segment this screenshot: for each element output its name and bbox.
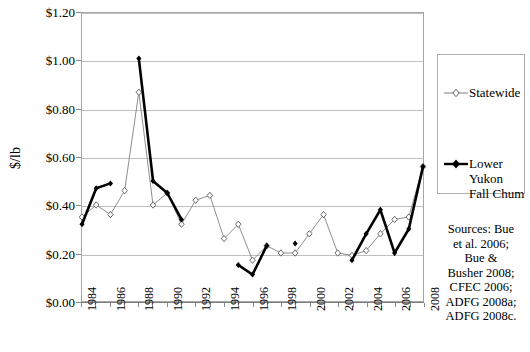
sources-line: Bue &: [434, 251, 528, 266]
x-tick-mark: [224, 303, 225, 307]
x-tick-mark: [338, 303, 339, 307]
sources-line: Sources: Bue: [434, 222, 528, 237]
open-diamond-marker-icon: [443, 86, 469, 100]
x-tick-label: 2002: [343, 287, 355, 311]
x-tick-mark: [167, 303, 168, 307]
filled-diamond-marker-icon: [443, 157, 469, 171]
x-tick-mark: [424, 303, 425, 307]
open-diamond-marker-icon: [278, 250, 283, 256]
x-tick-mark: [195, 303, 196, 307]
x-tick-mark: [367, 303, 368, 307]
x-tick-mark: [81, 303, 82, 307]
filled-diamond-marker-icon: [136, 56, 141, 62]
open-diamond-marker-icon: [108, 211, 113, 217]
x-tick-mark: [253, 303, 254, 307]
sources-line: ADFG 2008c.: [434, 309, 528, 324]
chart-figure: $/lb $0.00$0.20$0.40$0.60$0.80$1.00$1.20…: [0, 0, 530, 352]
y-tick-label: $0.20: [20, 248, 75, 261]
x-tick-label: 1994: [229, 287, 241, 311]
x-tick-label: 2000: [315, 287, 327, 311]
x-tick-mark: [110, 303, 111, 307]
legend-label-statewide: Statewide: [469, 85, 525, 100]
x-tick-label: 1992: [200, 287, 212, 311]
y-tick-label: $1.00: [20, 54, 75, 67]
sources-note: Sources: Bueet al. 2006;Bue &Busher 2008…: [434, 222, 528, 324]
legend-label-lower-yukon-fall-chum: Lower Yukon Fall Chum: [469, 156, 525, 201]
open-diamond-marker-icon: [207, 192, 212, 198]
open-diamond-marker-icon: [150, 202, 155, 208]
open-diamond-marker-icon: [122, 187, 127, 193]
filled-diamond-marker-icon: [108, 180, 113, 186]
open-diamond-marker-icon: [193, 197, 198, 203]
x-tick-label: 1986: [115, 287, 127, 311]
x-tick-label: 2004: [372, 287, 384, 311]
x-tick-label: 1990: [172, 287, 184, 311]
x-tick-mark: [281, 303, 282, 307]
y-tick-label: $1.20: [20, 6, 75, 19]
open-diamond-marker-icon: [136, 89, 141, 95]
x-tick-label: 2006: [400, 287, 412, 311]
legend-item-lower-yukon-fall-chum: Lower Yukon Fall Chum: [443, 156, 525, 201]
y-tick-label: $0.00: [20, 296, 75, 309]
y-tick-label: $0.80: [20, 103, 75, 116]
sources-line: CFEC 2006;: [434, 280, 528, 295]
x-tick-mark: [395, 303, 396, 307]
plot-area: [81, 12, 424, 302]
open-diamond-marker-icon: [335, 250, 340, 256]
legend: Statewide Lower Yukon Fall Chum: [437, 54, 525, 194]
x-tick-label: 1984: [86, 287, 98, 311]
sources-line: et al. 2006;: [434, 237, 528, 252]
x-tick-label: 1998: [286, 287, 298, 311]
series-line-lower-yukon-fall-chum: [352, 167, 423, 261]
open-diamond-marker-icon: [93, 202, 98, 208]
x-tick-label: 1988: [143, 287, 155, 311]
x-tick-mark: [310, 303, 311, 307]
legend-item-statewide: Statewide: [443, 85, 525, 100]
y-tick-label: $0.40: [20, 199, 75, 212]
x-tick-mark: [138, 303, 139, 307]
series-line-lower-yukon-fall-chum: [139, 59, 182, 220]
series-line-statewide: [82, 92, 423, 260]
chart-series-layer: [82, 13, 423, 301]
x-tick-label: 1996: [258, 287, 270, 311]
sources-line: ADFG 2008a;: [434, 295, 528, 310]
y-tick-label: $0.60: [20, 151, 75, 164]
sources-line: Busher 2008;: [434, 266, 528, 281]
filled-diamond-marker-icon: [293, 240, 298, 246]
